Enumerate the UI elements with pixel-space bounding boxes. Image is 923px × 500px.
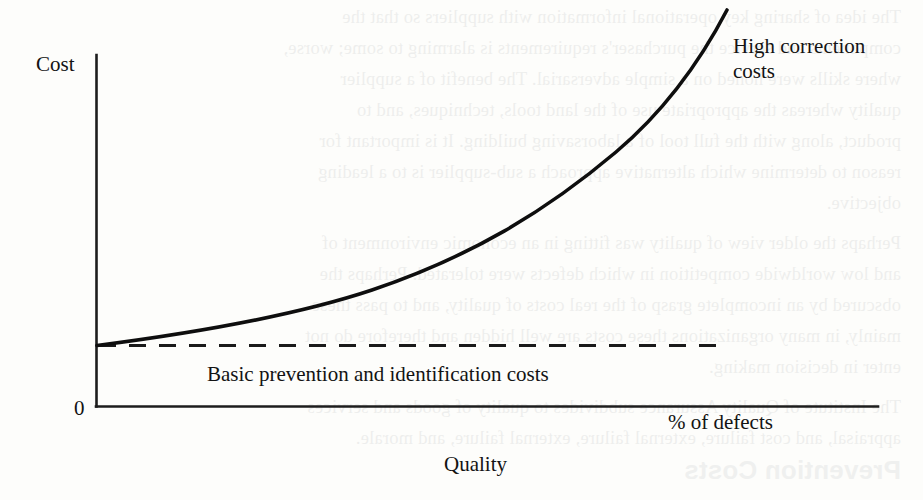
cost-curve: [97, 10, 727, 346]
x-axis-title-defects: % of defects: [668, 410, 773, 435]
basic-prevention-costs-annotation: Basic prevention and identification cost…: [207, 362, 549, 387]
y-axis-title: Cost: [36, 52, 75, 77]
high-correction-costs-line-2: costs: [733, 59, 865, 84]
high-correction-costs-line-1: High correction: [733, 34, 865, 59]
scanned-page: The idea of sharing key operational info…: [0, 0, 923, 500]
origin-label: 0: [74, 396, 85, 421]
high-correction-costs-annotation: High correction costs: [733, 34, 865, 84]
x-axis-title-quality: Quality: [444, 452, 507, 477]
